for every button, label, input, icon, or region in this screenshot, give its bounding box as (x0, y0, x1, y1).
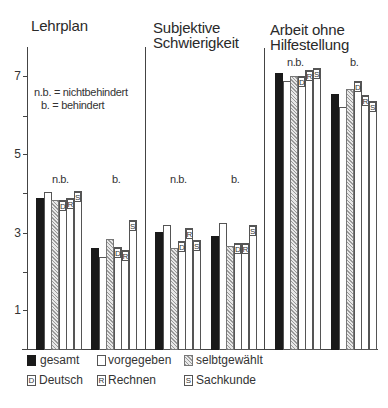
panel-title-subjektive-2: Schwierigkeit (153, 35, 239, 51)
bar-sachkunde-b (129, 220, 137, 350)
bar-key-r: R (67, 199, 74, 209)
legend-label-vorgegeben: vorgegeben (108, 353, 171, 367)
bar-key-d: D (114, 248, 121, 258)
legend-label-rechnen: Rechnen (108, 373, 156, 387)
bar-key-d: D (234, 244, 241, 254)
y-tick-label-3: 3 (7, 226, 21, 240)
y-tick-7 (23, 76, 28, 77)
y-tick-2 (23, 272, 28, 273)
legend-label-sachkunde: Sachkunde (196, 373, 256, 387)
panel-title-arbeit-2: Hilfestellung (270, 37, 349, 53)
y-tick-5 (23, 154, 28, 155)
legend-key-rechnen: R (97, 375, 106, 386)
legend-key-deutsch: D (27, 375, 36, 386)
y-tick-label-7: 7 (7, 69, 21, 83)
group-label-subjektive-b: b. (231, 173, 239, 185)
group-label-subjektive-nb: n.b. (170, 173, 187, 185)
bar-key-s: S (249, 226, 256, 236)
panel-title-lehrplan: Lehrplan (31, 18, 88, 34)
panel-divider-1 (145, 47, 146, 350)
bar-key-r: R (242, 244, 249, 254)
legend-label-deutsch: Deutsch (39, 373, 83, 387)
bar-sachkunde-nb (313, 68, 321, 350)
bar-key-s: S (369, 102, 376, 112)
bar-key-r: R (306, 71, 313, 81)
group-label-lehrplan-b: b. (112, 173, 120, 185)
bar-key-s: S (313, 69, 320, 79)
panel-divider-2 (264, 48, 265, 350)
bar-sachkunde-b (249, 225, 257, 350)
bar-key-s: S (193, 241, 200, 251)
legend-note-b: b. = behindert (41, 99, 104, 111)
y-tick-1 (23, 310, 28, 311)
legend-swatch-gesamt (27, 355, 36, 366)
y-axis (27, 47, 28, 350)
legend-key-sachkunde: S (184, 375, 193, 386)
bar-key-d: D (298, 77, 305, 87)
bar-key-d: D (354, 82, 361, 92)
legend-label-gesamt: gesamt (40, 353, 79, 367)
legend-swatch-selbtgewaehlt (184, 355, 193, 366)
bar-key-r: R (186, 229, 193, 239)
bar-sachkunde-nb (193, 240, 201, 350)
bar-key-s: S (129, 221, 136, 231)
bar-key-r: R (362, 96, 369, 106)
bar-key-d: D (178, 242, 185, 252)
group-label-lehrplan-nb: n.b. (52, 173, 69, 185)
y-tick-label-1: 1 (7, 303, 21, 317)
y-tick-4 (23, 193, 28, 194)
group-label-arbeit-nb: n.b. (287, 56, 304, 68)
bar-key-d: D (59, 201, 66, 211)
bar-sachkunde-b (369, 101, 377, 350)
legend-note-nb: n.b. = nichtbehindert (34, 86, 128, 98)
y-tick-label-5: 5 (7, 147, 21, 161)
bar-key-r: R (122, 251, 129, 261)
legend-swatch-vorgegeben (97, 355, 106, 366)
bar-sachkunde-nb (74, 191, 82, 350)
y-tick-6 (23, 116, 28, 117)
legend-label-selbtgewaehlt: selbtgewählt (196, 353, 263, 367)
bar-key-s: S (74, 192, 81, 202)
group-label-arbeit-b: b. (350, 56, 358, 68)
y-tick-3 (23, 233, 28, 234)
